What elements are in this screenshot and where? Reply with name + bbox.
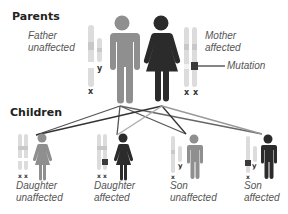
child2-label-line2: affected (94, 192, 135, 204)
child3-y-label: y (178, 162, 183, 170)
father-chromosomes (88, 25, 102, 87)
child2-label-line1: Daughter (94, 180, 135, 192)
daughter-affected-chromosomes (97, 134, 108, 170)
child2-x2-label: x (103, 172, 107, 179)
father-figure-icon (108, 16, 140, 104)
child-label-son-unaffected: Son unaffected (170, 180, 217, 204)
child1-x1-label: x (18, 172, 22, 179)
inheritance-lines (36, 106, 262, 135)
child-label-daughter-affected: Daughter affected (94, 180, 135, 204)
child4-x-label: x (246, 173, 250, 180)
child1-x2-label: x (24, 172, 28, 179)
daughter-unaffected-figure-icon (33, 134, 52, 181)
child3-x-label: x (171, 173, 175, 180)
child2-x1-label: x (97, 172, 101, 179)
father-label-line1: Father (28, 30, 75, 42)
daughter-unaffected-chromosomes (18, 134, 28, 170)
son-affected-figure-icon (261, 135, 277, 180)
child1-label-line2: unaffected (16, 192, 63, 204)
mother-figure-icon (144, 16, 180, 102)
mutation-marker (191, 62, 198, 70)
child1-label-line1: Daughter (16, 180, 63, 192)
child3-label-line1: Son (170, 180, 217, 192)
father-x-label: x (88, 87, 93, 96)
child3-label-line2: unaffected (170, 192, 217, 204)
father-label-line2: unaffected (28, 42, 75, 54)
mother-x2-label: x (193, 88, 198, 97)
son-unaffected-figure-icon (187, 135, 203, 180)
child4-y-label: y (252, 162, 257, 170)
child-label-son-affected: Son affected (244, 180, 280, 204)
mother-label-line2: affected (205, 42, 241, 54)
daughter-affected-figure-icon (114, 134, 133, 181)
child-label-daughter-unaffected: Daughter unaffected (16, 180, 63, 204)
mother-label-line1: Mother (205, 30, 241, 42)
father-y-label: y (97, 64, 102, 73)
mother-label: Mother affected (205, 30, 241, 54)
children-heading: Children (10, 106, 62, 119)
mother-x1-label: x (184, 88, 189, 97)
child4-label-line1: Son (244, 180, 280, 192)
parents-heading: Parents (12, 10, 60, 23)
mutation-label: Mutation (227, 60, 265, 72)
child4-label-line2: affected (244, 192, 280, 204)
father-label: Father unaffected (28, 30, 75, 54)
